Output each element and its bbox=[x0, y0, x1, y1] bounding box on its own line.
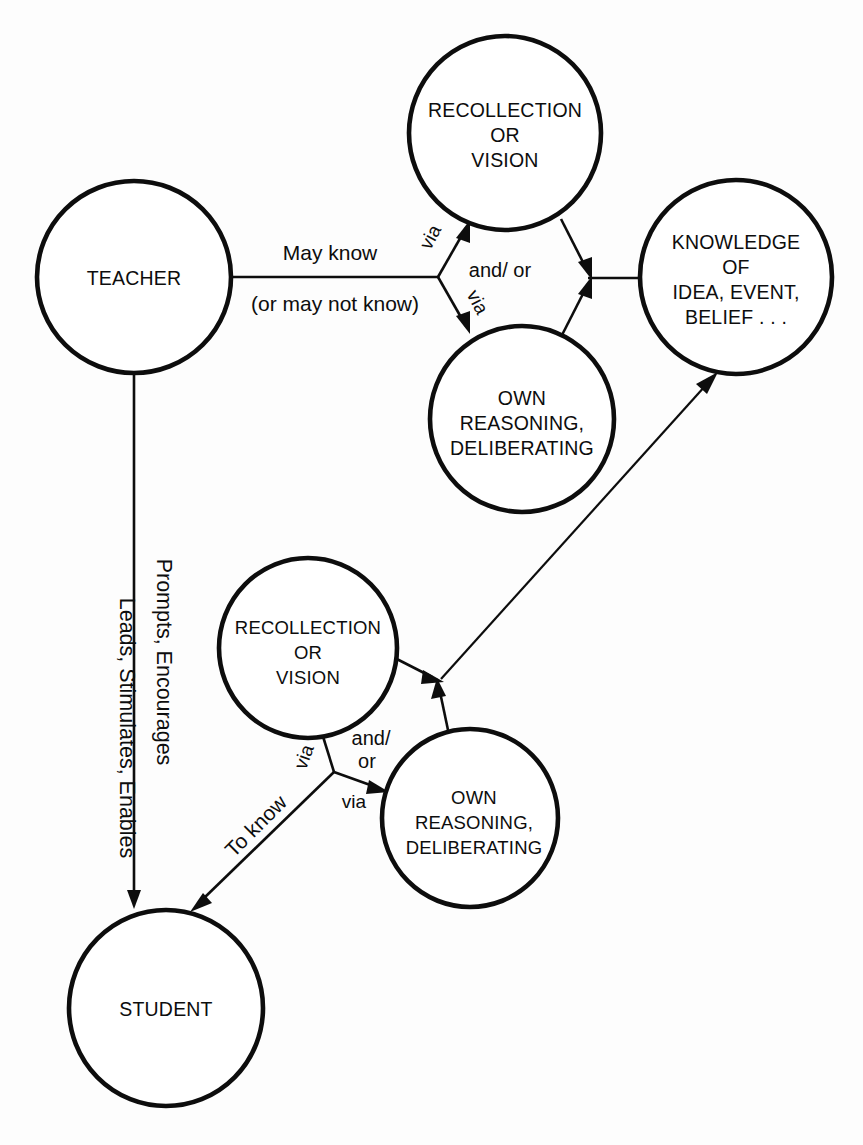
node-recollection-bottom-label-0: RECOLLECTION bbox=[235, 617, 381, 638]
edge-label-prompts-encourages: Prompts, Encourages bbox=[152, 559, 176, 766]
edge-branch-to-recollection-top bbox=[438, 220, 470, 277]
edge-label-via-bottom-lower: via bbox=[342, 791, 367, 812]
node-recollection-top-label-0: RECOLLECTION bbox=[428, 99, 582, 121]
node-knowledge-label-3: BELIEF . . . bbox=[685, 306, 787, 328]
edge-own-reasoning-top-to-junction bbox=[561, 276, 592, 337]
node-teacher[interactable]: TEACHER bbox=[37, 181, 231, 373]
node-recollection-or-vision-bottom[interactable]: RECOLLECTION OR VISION bbox=[219, 558, 397, 738]
edge-student-to-bottom-branch bbox=[190, 772, 334, 912]
node-own-reasoning-top-label-2: DELIBERATING bbox=[450, 437, 594, 459]
node-own-reasoning-bottom-label-2: DELIBERATING bbox=[406, 837, 543, 858]
edge-label-via-bottom-upper: via bbox=[290, 741, 318, 771]
node-recollection-or-vision-top[interactable]: RECOLLECTION OR VISION bbox=[409, 36, 601, 230]
edge-own-reasoning-bottom-to-junction bbox=[431, 678, 448, 730]
edge-label-may-not-know: (or may not know) bbox=[251, 292, 419, 315]
node-teacher-label-0: TEACHER bbox=[87, 267, 182, 289]
edge-recollection-top-to-junction bbox=[561, 219, 592, 280]
edge-label-and-or-top: and/ or bbox=[469, 259, 532, 281]
edge-teacher-to-branch bbox=[212, 270, 438, 284]
edge-label-and-or-bottom-line2: or bbox=[358, 750, 376, 772]
edge-branch-to-own-reasoning-top bbox=[438, 277, 470, 334]
node-knowledge-label-0: KNOWLEDGE bbox=[672, 231, 801, 253]
diagram-canvas: TEACHER RECOLLECTION OR VISION OWN REASO… bbox=[0, 0, 863, 1145]
edge-label-to-know: To know bbox=[220, 790, 291, 861]
node-knowledge-label-2: IDEA, EVENT, bbox=[672, 281, 799, 303]
node-recollection-bottom-label-1: OR bbox=[294, 642, 322, 663]
node-own-reasoning-top[interactable]: OWN REASONING, DELIBERATING bbox=[430, 326, 614, 512]
edge-label-may-know: May know bbox=[283, 241, 378, 264]
node-own-reasoning-top-label-0: OWN bbox=[498, 387, 546, 409]
edge-label-via-top-upper: via bbox=[415, 221, 445, 253]
diagram-svg: TEACHER RECOLLECTION OR VISION OWN REASO… bbox=[0, 0, 863, 1145]
node-own-reasoning-bottom[interactable]: OWN REASONING, DELIBERATING bbox=[382, 729, 558, 907]
node-student-label-0: STUDENT bbox=[119, 998, 212, 1020]
node-recollection-top-label-2: VISION bbox=[471, 149, 538, 171]
node-own-reasoning-bottom-label-1: REASONING, bbox=[415, 812, 533, 833]
node-own-reasoning-bottom-label-0: OWN bbox=[451, 787, 497, 808]
node-recollection-top-label-1: OR bbox=[490, 124, 520, 146]
edge-label-and-or-bottom-line1: and/ bbox=[352, 727, 391, 749]
node-knowledge[interactable]: KNOWLEDGE OF IDEA, EVENT, BELIEF . . . bbox=[640, 180, 832, 374]
node-student[interactable]: STUDENT bbox=[69, 910, 263, 1106]
node-knowledge-label-1: OF bbox=[722, 256, 749, 278]
edge-label-leads-stimulates-enables: Leads, Stimulates, Enables bbox=[115, 598, 139, 859]
node-own-reasoning-top-label-1: REASONING, bbox=[460, 412, 584, 434]
node-recollection-bottom-label-2: VISION bbox=[276, 667, 340, 688]
